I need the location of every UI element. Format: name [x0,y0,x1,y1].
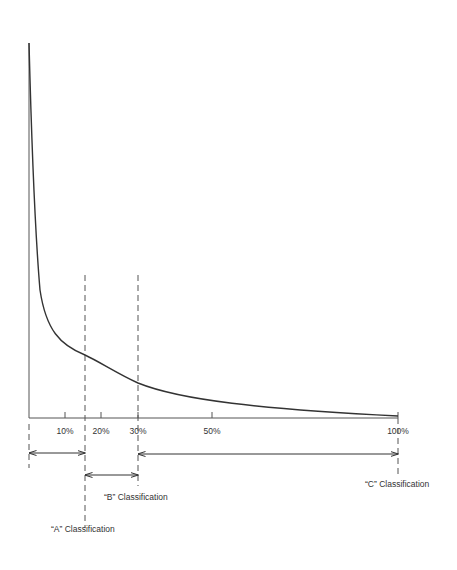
tick-label-20: 20% [92,426,109,436]
label-c-classification: “C” Classification [365,479,430,489]
classification-boundaries [29,275,398,528]
pareto-curve [29,43,398,416]
label-b-classification: “B” Classification [104,492,168,502]
tick-label-10: 10% [56,426,73,436]
label-a-classification: “A” Classification [51,524,115,534]
tick-label-50: 50% [203,426,220,436]
abc-classification-chart: 10% 20% 30% 50% 100% “A” Classification … [0,0,457,570]
